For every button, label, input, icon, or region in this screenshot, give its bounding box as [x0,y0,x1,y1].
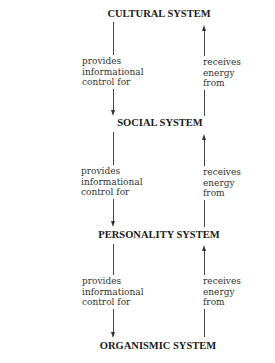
label-receives-energy: receives energy from [203,166,241,200]
node-organismic-system: ORGANISMIC SYSTEM [100,340,216,351]
arrow-down-icon [111,110,115,116]
cut-off-caption [25,355,255,361]
node-cultural-system: CULTURAL SYSTEM [107,8,210,19]
arrow-up-icon [202,134,206,140]
arrow-up-icon [202,25,206,31]
node-social-system: SOCIAL SYSTEM [117,117,203,128]
arrow-down-icon [111,332,115,338]
label-provides-control: provides informational control for [81,165,143,199]
label-receives-energy: receives energy from [203,275,241,309]
label-receives-energy: receives energy from [203,56,241,90]
arrow-up-icon [202,245,206,251]
arrow-down-icon [111,221,115,227]
label-provides-control: provides informational control for [82,275,144,309]
label-provides-control: provides informational control for [82,55,144,89]
node-personality-system: PERSONALITY SYSTEM [98,229,219,240]
